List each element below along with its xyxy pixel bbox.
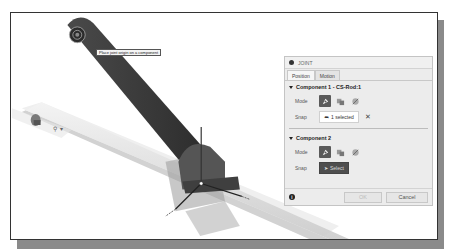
snap-label: Snap [295, 114, 319, 120]
cursor-icon: ⮪ [324, 114, 329, 121]
collapse-triangle-icon[interactable] [289, 86, 293, 89]
snap-select-button[interactable]: ➤ Select [319, 162, 349, 174]
two-edge-intersection-icon[interactable] [349, 95, 361, 107]
simple-mode-icon[interactable] [319, 146, 331, 158]
between-two-faces-icon[interactable] [334, 95, 346, 107]
small-part-icon [31, 114, 41, 126]
component2-header[interactable]: Component 2 [285, 132, 432, 144]
between-two-faces-icon[interactable] [334, 146, 346, 158]
ok-button[interactable]: OK [344, 192, 382, 203]
snap-value: 1 selected [331, 114, 354, 120]
component1-mode-row: Mode [285, 93, 432, 109]
component1-snap-row: Snap ⮪ 1 selected ✕ [285, 109, 432, 125]
cancel-button[interactable]: Cancel [386, 192, 428, 203]
panel-title: JOINT [298, 60, 312, 66]
component1-title: Component 1 - CS-Rod:1 [296, 84, 361, 90]
joint-origin-icon[interactable]: ⚲ [53, 125, 57, 132]
simple-mode-icon[interactable] [319, 95, 331, 107]
clear-selection-icon[interactable]: ✕ [365, 113, 371, 121]
joint-icon [289, 60, 294, 65]
snap-label: Snap [295, 165, 319, 171]
component2-mode-row: Mode [285, 144, 432, 160]
chevron-down-icon[interactable]: ▾ [60, 125, 63, 132]
component2-title: Component 2 [296, 135, 331, 141]
mode-label: Mode [295, 98, 319, 104]
tooltip: Place joint origin on a component [96, 49, 161, 56]
info-icon[interactable]: i [289, 194, 295, 200]
figure-frame: Place joint origin on a component ⚲ ▾ JO… [10, 12, 438, 240]
tab-motion[interactable]: Motion [315, 70, 340, 80]
tab-bar: Position Motion [285, 69, 432, 81]
tab-position[interactable]: Position [287, 70, 315, 80]
cursor-icon: ➤ [324, 165, 328, 171]
snap-value: Select [330, 165, 344, 171]
mode-label: Mode [295, 149, 319, 155]
two-edge-intersection-icon[interactable] [349, 146, 361, 158]
panel-footer: i OK Cancel [285, 188, 432, 205]
collapse-triangle-icon[interactable] [289, 137, 293, 140]
component2-snap-row: Snap ➤ Select [285, 160, 432, 176]
joint-panel: JOINT Position Motion Component 1 - CS-R… [284, 56, 433, 206]
section-divider [289, 128, 428, 129]
snap-selection[interactable]: ⮪ 1 selected [319, 111, 359, 123]
panel-title-bar[interactable]: JOINT [285, 57, 432, 69]
component1-header[interactable]: Component 1 - CS-Rod:1 [285, 81, 432, 93]
mini-toolbar[interactable]: ⚲ ▾ [53, 125, 63, 132]
